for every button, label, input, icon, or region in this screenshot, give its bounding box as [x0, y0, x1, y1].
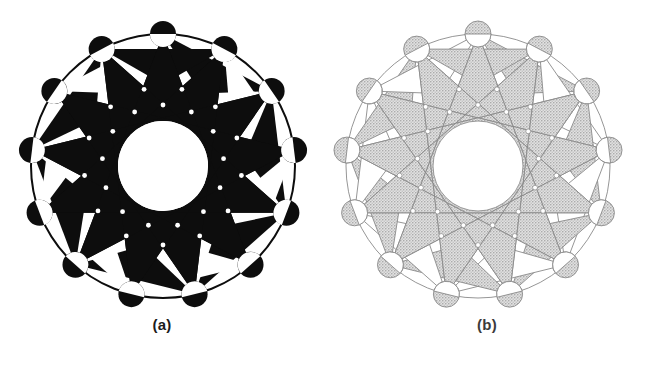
figure-caption-b: (b) [325, 316, 649, 334]
figure-panel-a: (a) [0, 0, 324, 375]
figure-panel-b: (b) [325, 0, 649, 375]
star-rosette-gray [325, 0, 649, 310]
figure-plate: (a) (b) [0, 0, 649, 375]
star-rosette-black [0, 0, 324, 310]
figure-caption-a: (a) [0, 316, 324, 334]
